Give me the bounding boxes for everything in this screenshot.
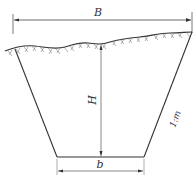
depth-label: H <box>86 95 99 106</box>
side-slope-label: 1:m <box>168 109 183 129</box>
channel-diagram: B H 1:m b <box>0 0 196 189</box>
top-width-label: B <box>93 6 102 19</box>
bottom-width-dimension: b <box>57 158 144 175</box>
ground-surface <box>5 32 192 56</box>
top-width-dimension: B <box>13 6 192 34</box>
depth-dimension: H <box>86 44 103 157</box>
bottom-width-label: b <box>96 158 103 171</box>
